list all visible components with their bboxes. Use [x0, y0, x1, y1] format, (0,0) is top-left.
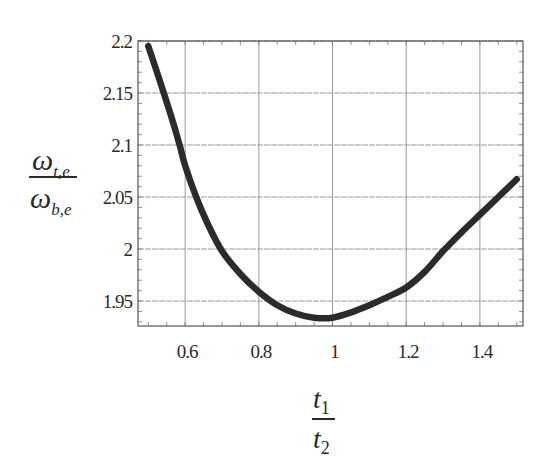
y-tick-label: 1.95 — [103, 291, 133, 312]
x-tick-label: 0.6 — [177, 341, 198, 362]
x-tick-label: 1.2 — [398, 341, 419, 362]
y-tick-label: 2.15 — [103, 83, 133, 104]
y-label-numerator: ωt,e — [32, 143, 70, 181]
x-axis-tick-labels: 0.60.811.21.4 — [177, 341, 494, 362]
y-tick-label: 2.1 — [111, 135, 132, 156]
grid-lines — [138, 41, 523, 326]
x-axis-label: t1 t2 — [312, 383, 335, 458]
y-tick-label: 2.05 — [103, 187, 133, 208]
minor-ticks — [138, 41, 523, 326]
y-tick-label: 2 — [124, 239, 133, 260]
y-label-denominator: ωb,e — [30, 181, 72, 219]
y-axis-label: ωt,e ωb,e — [29, 143, 77, 219]
x-tick-label: 0.8 — [250, 341, 271, 362]
chart: 0.60.811.21.4 1.9522.052.12.152.2 ωt,e ω… — [0, 0, 543, 463]
y-tick-label: 2.2 — [111, 31, 132, 52]
x-label-numerator: t1 — [313, 383, 330, 418]
x-tick-label: 1 — [330, 341, 339, 362]
plot-frame — [138, 41, 523, 326]
y-axis-tick-labels: 1.9522.052.12.152.2 — [103, 31, 133, 312]
x-tick-label: 1.4 — [472, 341, 494, 362]
x-label-denominator: t2 — [313, 423, 330, 458]
